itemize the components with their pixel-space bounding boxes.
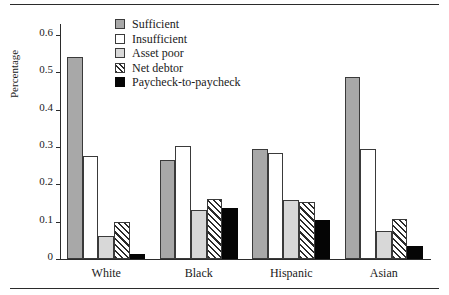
y-tick-mark <box>56 222 60 223</box>
y-tick-mark <box>56 110 60 111</box>
y-tick-mark <box>56 35 60 36</box>
y-tick-mark <box>56 184 60 185</box>
y-tick-label: 0.1 <box>39 214 53 225</box>
legend-item-sufficient[interactable]: Sufficient <box>115 17 241 32</box>
y-tick-label: 0 <box>48 251 54 262</box>
bar-asian-netdebtor[interactable] <box>392 219 408 259</box>
bar-black-paycheck[interactable] <box>222 208 238 259</box>
bar-group-hispanic: Hispanic <box>252 24 330 259</box>
legend-label-insufficient: Insufficient <box>132 33 187 45</box>
legend-swatch-netdebtor-icon <box>115 63 125 73</box>
bar-asian-sufficient[interactable] <box>345 77 361 259</box>
x-axis-line <box>60 259 431 260</box>
y-tick-label: 0.5 <box>39 64 53 75</box>
legend-swatch-insufficient-icon <box>115 34 125 44</box>
bar-black-insufficient[interactable] <box>175 146 191 259</box>
bar-asian-assetpoor[interactable] <box>376 231 392 259</box>
bar-black-netdebtor[interactable] <box>207 199 223 259</box>
y-tick-mark <box>56 72 60 73</box>
y-tick-mark <box>56 147 60 148</box>
legend-label-sufficient: Sufficient <box>132 18 179 30</box>
legend-item-netdebtor[interactable]: Net debtor <box>115 61 241 76</box>
bar-asian-paycheck[interactable] <box>407 246 423 259</box>
figure-container: Percentage 00.10.20.30.40.50.6 WhiteBlac… <box>0 0 449 295</box>
x-tick-label-hispanic: Hispanic <box>252 267 330 279</box>
bar-white-assetpoor[interactable] <box>98 236 114 259</box>
bar-white-netdebtor[interactable] <box>114 222 130 259</box>
x-tick-label-asian: Asian <box>345 267 423 279</box>
bar-black-assetpoor[interactable] <box>191 210 207 259</box>
x-tick-label-white: White <box>67 267 145 279</box>
top-rule <box>10 4 439 5</box>
bar-hispanic-assetpoor[interactable] <box>283 200 299 259</box>
legend-swatch-sufficient-icon <box>115 19 125 29</box>
y-tick-label: 0.2 <box>39 176 53 187</box>
bar-white-paycheck[interactable] <box>130 254 146 259</box>
bar-asian-insufficient[interactable] <box>360 149 376 259</box>
bar-white-sufficient[interactable] <box>67 57 83 259</box>
y-tick-label: 0.6 <box>39 27 53 38</box>
y-tick-label: 0.4 <box>39 102 53 113</box>
legend-swatch-assetpoor-icon <box>115 48 125 58</box>
bar-hispanic-sufficient[interactable] <box>252 149 268 259</box>
y-tick-mark <box>56 259 60 260</box>
y-tick-label: 0.3 <box>39 139 53 150</box>
legend-label-assetpoor: Asset poor <box>132 47 184 59</box>
x-tick-label-black: Black <box>160 267 238 279</box>
legend-swatch-paycheck-icon <box>115 77 125 87</box>
bottom-rule <box>10 288 439 289</box>
y-axis-title: Percentage <box>9 50 20 98</box>
legend-item-assetpoor[interactable]: Asset poor <box>115 46 241 61</box>
legend-item-paycheck[interactable]: Paycheck-to-paycheck <box>115 75 241 90</box>
bar-hispanic-insufficient[interactable] <box>268 153 284 259</box>
legend-label-netdebtor: Net debtor <box>132 62 183 74</box>
bar-black-sufficient[interactable] <box>160 160 176 259</box>
bar-hispanic-paycheck[interactable] <box>315 220 331 259</box>
legend-label-paycheck: Paycheck-to-paycheck <box>132 76 241 88</box>
bar-white-insufficient[interactable] <box>83 156 99 259</box>
chart-legend: SufficientInsufficientAsset poorNet debt… <box>115 17 241 90</box>
bar-hispanic-netdebtor[interactable] <box>299 202 315 259</box>
bar-group-asian: Asian <box>345 24 423 259</box>
legend-item-insufficient[interactable]: Insufficient <box>115 32 241 47</box>
